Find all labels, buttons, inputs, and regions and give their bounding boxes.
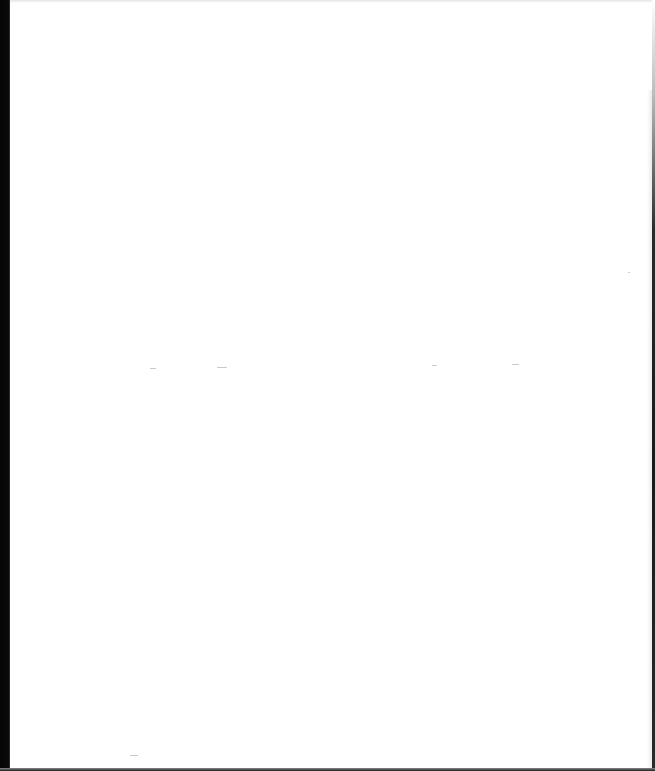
- scan-speck: [512, 364, 519, 365]
- blank-scanned-page: [0, 0, 655, 771]
- left-scan-edge: [0, 0, 10, 771]
- scan-speck: [150, 368, 156, 369]
- scan-speck: [628, 272, 630, 273]
- scan-speck: [217, 367, 227, 368]
- scan-speck: [432, 365, 437, 366]
- scan-speck: [130, 755, 138, 756]
- top-scan-edge: [10, 0, 655, 3]
